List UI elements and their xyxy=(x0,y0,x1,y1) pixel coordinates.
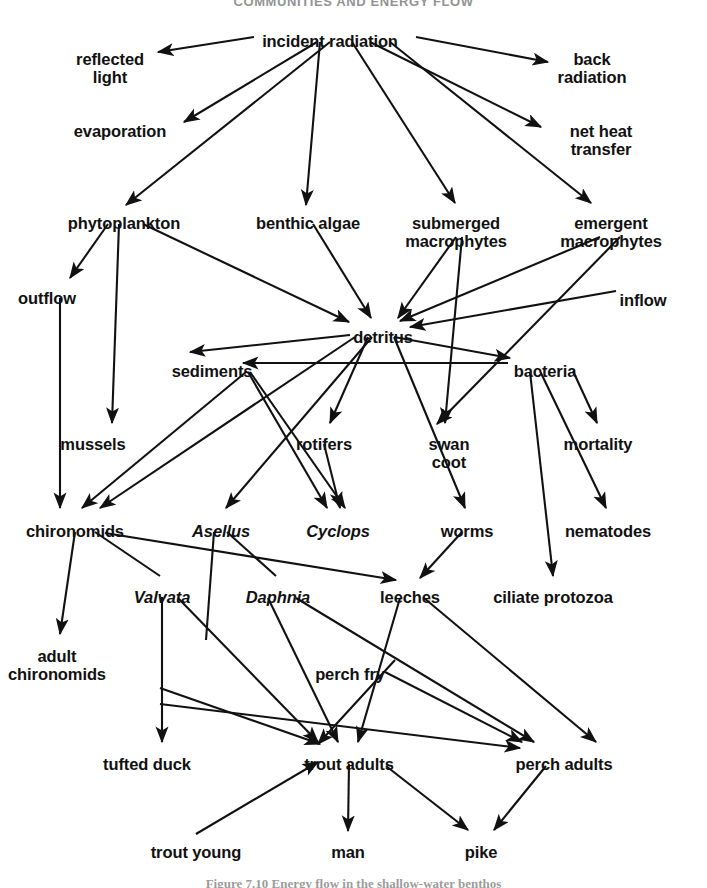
node-pike: pike xyxy=(465,843,498,861)
node-mortality: mortality xyxy=(564,435,633,453)
edge-detritus-to-sediments xyxy=(190,335,350,352)
edge-trout_young-to-trout_adults xyxy=(196,762,318,834)
node-back_radiation: back radiation xyxy=(558,50,627,87)
node-perch_adults: perch adults xyxy=(516,755,613,773)
edge-adult_chironomids-to-trout_adults xyxy=(160,688,320,744)
edge-phytoplankton-to-detritus xyxy=(143,224,349,322)
node-worms: worms xyxy=(441,522,494,540)
node-sediments: sediments xyxy=(172,362,253,380)
edge-benthic_algae-to-detritus xyxy=(313,224,371,318)
node-perch_fry: perch fry xyxy=(315,665,385,683)
node-outflow: outflow xyxy=(18,289,76,307)
edge-chironomids-to-adult_chironomids xyxy=(60,532,75,634)
node-daphnia: Daphnia xyxy=(246,588,310,606)
edge-incident_radiation-to-evaporation xyxy=(184,42,317,122)
node-detritus: detritus xyxy=(353,328,413,346)
edge-asellus-to-valvata xyxy=(206,532,214,640)
node-mussels: mussels xyxy=(60,435,125,453)
node-swan_coot: swan coot xyxy=(429,435,470,472)
node-valvata: Valvata xyxy=(134,588,190,606)
node-incident_radiation: incident radiation xyxy=(262,32,398,50)
node-leeches: leeches xyxy=(380,588,440,606)
node-chironomids: chironomids xyxy=(26,522,124,540)
node-evaporation: evaporation xyxy=(74,122,166,140)
node-bacteria: bacteria xyxy=(514,362,577,380)
node-rotifers: rotifers xyxy=(296,435,352,453)
edge-incident_radiation-to-reflected_light xyxy=(158,37,254,52)
node-emergent_macrophytes: emergent macrophytes xyxy=(560,214,662,251)
node-ciliate_protozoa: ciliate protozoa xyxy=(493,588,612,606)
diagram-page: COMMUNITIES AND ENERGY FLOW incident rad… xyxy=(0,0,707,888)
edge-incident_radiation-to-benthic_algae xyxy=(306,42,320,205)
node-trout_young: trout young xyxy=(151,843,242,861)
edge-rotifers-to-cyclops xyxy=(324,444,340,508)
node-phytoplankton: phytoplankton xyxy=(68,214,180,232)
node-net_heat_transfer: net heat transfer xyxy=(570,122,632,159)
edge-emergent_macrophytes-to-swan_coot xyxy=(437,237,620,424)
edge-incident_radiation-to-back_radiation xyxy=(416,37,548,62)
edge-phytoplankton-to-mussels xyxy=(112,224,119,423)
edge-perch_fry-to-perch_adults xyxy=(385,672,522,742)
node-submerged_macrophytes: submerged macrophytes xyxy=(405,214,507,251)
edge-leeches-to-perch_adults xyxy=(424,598,596,742)
edge-bacteria-to-ciliate_protozoa xyxy=(530,372,553,576)
node-reflected_light: reflected light xyxy=(76,50,144,87)
edge-trout_adults-to-man xyxy=(348,764,349,831)
node-cyclops: Cyclops xyxy=(306,522,370,540)
edge-submerged_macrophytes-to-swan_coot xyxy=(445,237,462,423)
node-asellus: Asellus xyxy=(192,522,250,540)
edge-trout_adults-to-pike xyxy=(386,766,468,830)
node-tufted_duck: tufted duck xyxy=(103,755,191,773)
edge-inflow-to-detritus xyxy=(410,291,616,327)
node-trout_adults: trout adults xyxy=(304,755,394,773)
node-benthic_algae: benthic algae xyxy=(256,214,360,232)
edge-adult_chironomids-to-perch_adults xyxy=(160,704,520,748)
node-inflow: inflow xyxy=(619,291,666,309)
node-man: man xyxy=(331,843,365,861)
node-adult_chironomids: adult chironomids xyxy=(8,647,106,684)
node-nematodes: nematodes xyxy=(565,522,651,540)
edge-incident_radiation-to-submerged_macrophytes xyxy=(352,42,455,203)
figure-caption: Figure 7.10 Energy flow in the shallow-w… xyxy=(0,876,707,888)
edge-perch_adults-to-pike xyxy=(494,766,546,830)
